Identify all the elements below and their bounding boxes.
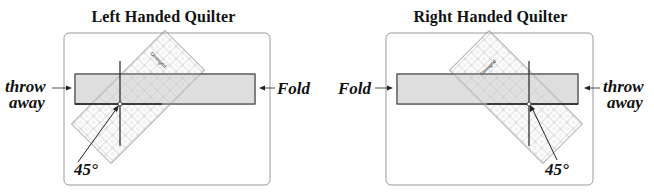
svg-text:away: away bbox=[607, 93, 643, 112]
left-handed-panel: Left Handed Quilter Omnigrid 45° throw a bbox=[0, 0, 327, 196]
fold-label: Fold bbox=[276, 79, 311, 98]
svg-text:away: away bbox=[9, 93, 45, 112]
fold-label: Fold bbox=[337, 79, 372, 98]
angle-label: 45° bbox=[544, 160, 569, 179]
angle-label: 45° bbox=[73, 160, 98, 179]
right-diagram: Omnigrid 45° Fold throw away bbox=[327, 0, 654, 196]
left-diagram: Omnigrid 45° throw away Fold bbox=[0, 0, 327, 196]
right-handed-panel: Right Handed Quilter Omnigrid 45° Fold t… bbox=[327, 0, 654, 196]
